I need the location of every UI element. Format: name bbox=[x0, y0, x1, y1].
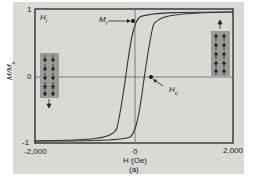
hc-label: Hc bbox=[169, 86, 178, 96]
x-tick-left: -2,000 bbox=[24, 148, 47, 156]
x-tick-mid: 0 bbox=[133, 148, 137, 156]
coercivity-point bbox=[149, 75, 153, 79]
x-axis-label: H (Oe) bbox=[123, 157, 147, 165]
domain-inset-up bbox=[211, 20, 230, 76]
descending-branch bbox=[35, 12, 233, 141]
x-tick-right: 2,000 bbox=[223, 147, 243, 155]
y-tick-bottom: -1 bbox=[22, 139, 29, 147]
mr-label: Mr bbox=[99, 16, 108, 26]
y-tick-top: 1 bbox=[27, 6, 31, 14]
ascending-branch bbox=[35, 12, 233, 141]
remanence-point bbox=[131, 19, 135, 23]
y-tick-mid: 0 bbox=[27, 73, 31, 81]
hi-label: Hi bbox=[40, 14, 47, 24]
domain-inset-down bbox=[40, 53, 59, 108]
y-axis-label: M/Ms bbox=[6, 61, 16, 80]
panel-label: (a) bbox=[129, 166, 139, 174]
